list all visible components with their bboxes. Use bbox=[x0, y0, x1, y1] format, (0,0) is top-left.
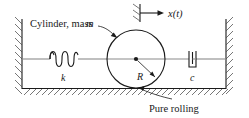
pure-rolling-label: Pure rolling bbox=[149, 103, 200, 114]
ground-hatching bbox=[24, 89, 228, 95]
radius-label: R bbox=[136, 71, 143, 82]
left-wall-hatching bbox=[15, 17, 22, 94]
damper-c bbox=[189, 51, 196, 67]
fixed-wall-left bbox=[15, 17, 22, 94]
mechanical-system-diagram: Cylinder, mass m x(t) k c R Pure rolling bbox=[0, 0, 249, 118]
fixed-datum-mark bbox=[133, 4, 140, 22]
cylinder-mass-label: Cylinder, mass bbox=[30, 18, 93, 29]
displacement-label: x(t) bbox=[167, 8, 183, 20]
damping-constant-label: c bbox=[190, 72, 195, 83]
spring-k bbox=[50, 52, 78, 67]
right-wall-hatching bbox=[226, 17, 233, 94]
cylinder-mass-symbol: m bbox=[86, 18, 94, 29]
cylinder-label-leader bbox=[98, 26, 118, 38]
ground-surface bbox=[22, 89, 228, 96]
spring-constant-label: k bbox=[61, 72, 66, 83]
fixed-wall-right bbox=[226, 17, 233, 94]
pure-rolling-leader bbox=[138, 86, 172, 99]
displacement-arrow bbox=[140, 10, 164, 15]
cylinder-center bbox=[134, 57, 138, 61]
